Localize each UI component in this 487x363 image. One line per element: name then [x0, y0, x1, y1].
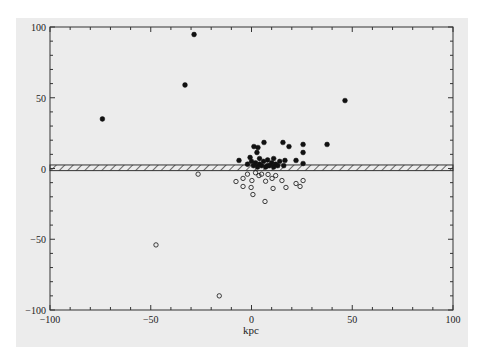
scatter-chart: −100−50050100−100−50050100 kpc [0, 0, 487, 363]
filled-point [287, 144, 292, 149]
y-tick-label: 0 [41, 164, 46, 175]
filled-point [343, 98, 348, 103]
filled-point [100, 117, 105, 122]
x-tick-label: 100 [446, 314, 461, 325]
y-tick-label: 50 [36, 93, 46, 104]
y-tick-label: −50 [30, 234, 46, 245]
filled-point [281, 140, 286, 145]
filled-point [301, 142, 306, 147]
filled-point [281, 163, 286, 168]
x-tick-label: −50 [143, 314, 159, 325]
y-tick-label: 100 [31, 22, 46, 33]
filled-point [301, 150, 306, 155]
filled-point [265, 158, 270, 163]
filled-point [283, 158, 288, 163]
filled-point [257, 156, 262, 161]
filled-point [245, 162, 250, 167]
x-tick-label: 50 [347, 314, 357, 325]
x-axis-label: kpc [243, 324, 259, 336]
filled-point [237, 158, 242, 163]
filled-point [325, 142, 330, 147]
filled-point [255, 150, 260, 155]
filled-point [256, 145, 261, 150]
filled-point [271, 156, 276, 161]
filled-point [301, 161, 306, 166]
filled-point [294, 158, 299, 163]
filled-point [183, 83, 188, 88]
filled-point [192, 32, 197, 37]
y-tick-label: −100 [25, 305, 46, 316]
filled-point [275, 163, 280, 168]
filled-point [262, 140, 267, 145]
